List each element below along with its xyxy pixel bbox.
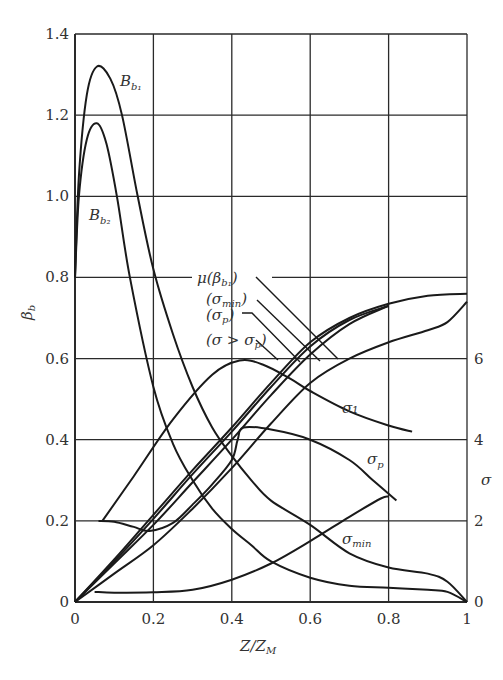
y-tick-label: 0.2 — [45, 512, 69, 530]
y-tick-label: 0.6 — [45, 350, 69, 368]
chart: 00.20.40.60.8100.20.40.60.81.01.21.40246… — [0, 0, 503, 680]
y-tick-label: 1.2 — [45, 106, 69, 124]
x-tick-label: 0.4 — [220, 610, 244, 628]
grid — [75, 34, 467, 602]
x-tick-label: 0.6 — [298, 610, 322, 628]
curves — [75, 66, 467, 602]
x-tick-label: 0.8 — [377, 610, 401, 628]
y-right-tick-label: 4 — [474, 431, 484, 449]
y-right-tick-label: 2 — [474, 512, 484, 530]
curve--p- — [75, 302, 467, 602]
x-tick-label: 1 — [462, 610, 472, 628]
label-sigmamin: σmin — [342, 530, 371, 549]
curve-b-b1 — [75, 66, 467, 602]
svg-text:βb: βb — [18, 305, 37, 321]
x-axis-label: Z/ZM — [239, 637, 277, 656]
y-axis-label: βb — [18, 305, 37, 321]
x-tick-label: 0.2 — [141, 610, 165, 628]
label-Bb1: Bb₁ — [119, 72, 141, 92]
x-tick-label: 0 — [70, 610, 80, 628]
y-tick-label: 0 — [59, 593, 69, 611]
curve--b1- — [75, 294, 467, 602]
legend-mu: μ(βb₁) — [197, 269, 238, 288]
curve-b-b2 — [75, 123, 467, 602]
y-right-tick-label: 6 — [474, 350, 484, 368]
leader-line — [256, 277, 338, 359]
legend-sigmap: (σp) — [206, 306, 235, 325]
y-right-tick-label: 0 — [474, 593, 484, 611]
y-right-axis-label: σ — [481, 471, 492, 489]
legend-sigma-gt-sigmap: (σ > σp) — [206, 331, 267, 350]
y-tick-label: 0.8 — [45, 268, 69, 286]
y-tick-label: 0.4 — [45, 431, 69, 449]
y-tick-label: 1.4 — [45, 25, 69, 43]
label-sigma1: σ₁ — [342, 399, 358, 417]
label-sigmap: σp — [367, 450, 384, 470]
y-tick-label: 1.0 — [45, 187, 69, 205]
label-Bb2: Bb₂ — [88, 206, 110, 226]
